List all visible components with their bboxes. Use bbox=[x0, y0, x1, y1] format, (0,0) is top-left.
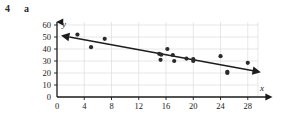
x-tick-label: 20 bbox=[189, 101, 198, 111]
data-point bbox=[191, 59, 195, 63]
data-point bbox=[89, 45, 93, 49]
data-point bbox=[75, 33, 79, 37]
gridlines bbox=[57, 22, 258, 97]
y-tick-label: 30 bbox=[43, 56, 52, 66]
y-tick-label: 20 bbox=[43, 68, 52, 78]
tick-marks bbox=[54, 25, 248, 100]
y-tick-label: 40 bbox=[43, 44, 52, 54]
data-point bbox=[218, 54, 222, 58]
x-tick-label: 12 bbox=[135, 101, 144, 111]
x-axis-title: x bbox=[259, 83, 264, 93]
x-tick-label: 4 bbox=[82, 101, 87, 111]
y-tick-labels: 0102030405060 bbox=[43, 20, 52, 102]
y-tick-label: 0 bbox=[47, 92, 51, 102]
y-tick-label: 10 bbox=[43, 80, 52, 90]
x-tick-label: 28 bbox=[244, 101, 253, 111]
data-point bbox=[165, 47, 169, 51]
data-point bbox=[184, 57, 188, 61]
data-point bbox=[246, 61, 250, 65]
y-tick-label: 60 bbox=[43, 20, 52, 30]
data-point bbox=[103, 37, 107, 41]
x-tick-label: 8 bbox=[109, 101, 113, 111]
data-point bbox=[159, 53, 163, 57]
data-point bbox=[225, 71, 229, 75]
scatter-plot: 0481216202428 0102030405060 x y bbox=[0, 0, 281, 120]
data-point bbox=[172, 59, 176, 63]
data-point bbox=[171, 53, 175, 57]
y-axis-title: y bbox=[61, 19, 66, 29]
figure-root: 4 a 0481216202428 bbox=[0, 0, 281, 120]
chart-svg: 0481216202428 0102030405060 x y bbox=[0, 0, 281, 120]
data-point bbox=[158, 58, 162, 62]
x-tick-label: 24 bbox=[216, 101, 225, 111]
x-tick-label: 0 bbox=[55, 101, 59, 111]
x-tick-label: 16 bbox=[162, 101, 171, 111]
x-tick-labels: 0481216202428 bbox=[55, 101, 252, 111]
y-tick-label: 50 bbox=[43, 32, 52, 42]
data-points bbox=[75, 33, 250, 76]
